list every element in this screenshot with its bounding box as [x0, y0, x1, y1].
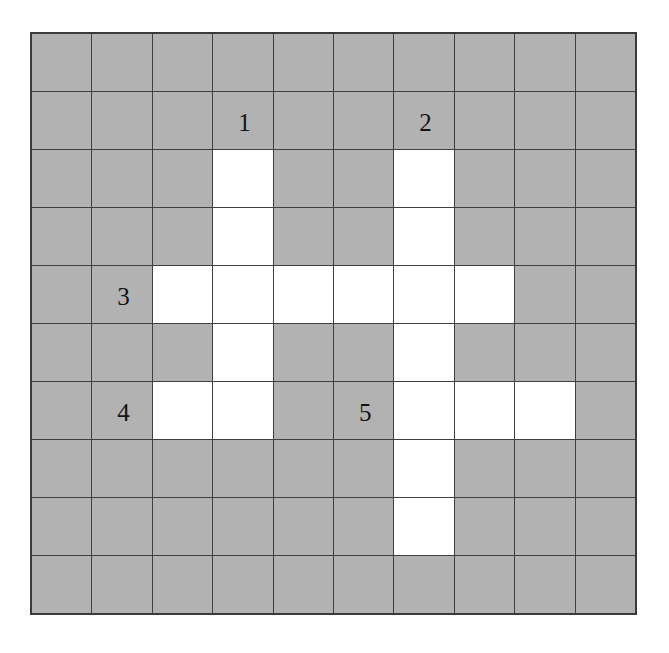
clue-number-5: 5 [334, 399, 393, 424]
grid-cell-r9-c8 [455, 498, 514, 555]
grid-cell-r6-c7[interactable] [394, 324, 453, 381]
grid-cell-r2-c2 [92, 92, 151, 149]
grid-cell-r5-c1 [32, 266, 91, 323]
grid-cell-r9-c7[interactable] [394, 498, 453, 555]
grid-cell-r6-c8 [455, 324, 514, 381]
grid-cell-r1-c1 [32, 34, 91, 91]
grid-cell-r8-c6 [334, 440, 393, 497]
grid-cell-r6-c6 [334, 324, 393, 381]
grid-cell-r3-c9 [515, 150, 574, 207]
grid-cell-r7-c6: 5 [334, 382, 393, 439]
grid-cell-r2-c8 [455, 92, 514, 149]
grid-cell-r5-c2: 3 [92, 266, 151, 323]
crossword-grid[interactable]: 12345 [30, 32, 637, 615]
grid-cell-r7-c10 [576, 382, 635, 439]
grid-cell-r3-c10 [576, 150, 635, 207]
grid-cell-r5-c7[interactable] [394, 266, 453, 323]
grid-cell-r4-c5 [274, 208, 333, 265]
grid-cell-r9-c5 [274, 498, 333, 555]
grid-cell-r1-c5 [274, 34, 333, 91]
grid-cell-r6-c4[interactable] [213, 324, 272, 381]
grid-cell-r2-c10 [576, 92, 635, 149]
grid-cell-r10-c10 [576, 556, 635, 613]
grid-cell-r9-c4 [213, 498, 272, 555]
grid-cell-r9-c6 [334, 498, 393, 555]
grid-cell-r8-c4 [213, 440, 272, 497]
grid-cell-r10-c4 [213, 556, 272, 613]
grid-cell-r1-c9 [515, 34, 574, 91]
grid-cell-r6-c3 [153, 324, 212, 381]
grid-cell-r1-c4 [213, 34, 272, 91]
grid-cell-r8-c3 [153, 440, 212, 497]
grid-cell-r5-c3[interactable] [153, 266, 212, 323]
grid-cell-r7-c1 [32, 382, 91, 439]
grid-cell-r7-c5 [274, 382, 333, 439]
grid-cell-r4-c1 [32, 208, 91, 265]
grid-cell-r6-c10 [576, 324, 635, 381]
grid-cell-r2-c9 [515, 92, 574, 149]
grid-cell-r5-c10 [576, 266, 635, 323]
grid-cell-r5-c6[interactable] [334, 266, 393, 323]
crossword-puzzle-figure: 12345 [0, 0, 669, 653]
grid-cell-r8-c1 [32, 440, 91, 497]
grid-cell-r10-c1 [32, 556, 91, 613]
grid-cell-r4-c7[interactable] [394, 208, 453, 265]
grid-cell-r5-c4[interactable] [213, 266, 272, 323]
grid-cell-r2-c6 [334, 92, 393, 149]
grid-cell-r1-c10 [576, 34, 635, 91]
grid-cell-r7-c9[interactable] [515, 382, 574, 439]
grid-cell-r3-c7[interactable] [394, 150, 453, 207]
grid-cell-r8-c5 [274, 440, 333, 497]
grid-cell-r4-c3 [153, 208, 212, 265]
grid-cell-r2-c5 [274, 92, 333, 149]
grid-cell-r3-c8 [455, 150, 514, 207]
grid-cell-r9-c10 [576, 498, 635, 555]
grid-cell-r3-c6 [334, 150, 393, 207]
clue-number-4: 4 [92, 399, 151, 424]
grid-cell-r4-c8 [455, 208, 514, 265]
grid-cell-r2-c1 [32, 92, 91, 149]
grid-cell-r3-c4[interactable] [213, 150, 272, 207]
grid-cell-r8-c9 [515, 440, 574, 497]
clue-number-3: 3 [92, 283, 151, 308]
grid-cell-r6-c2 [92, 324, 151, 381]
grid-cell-r10-c8 [455, 556, 514, 613]
grid-cell-r8-c2 [92, 440, 151, 497]
grid-cell-r1-c7 [394, 34, 453, 91]
grid-cell-r1-c3 [153, 34, 212, 91]
grid-cell-r3-c1 [32, 150, 91, 207]
grid-cell-r3-c5 [274, 150, 333, 207]
grid-cell-r10-c3 [153, 556, 212, 613]
grid-cell-r9-c2 [92, 498, 151, 555]
grid-cell-r10-c6 [334, 556, 393, 613]
grid-cell-r10-c5 [274, 556, 333, 613]
grid-cell-r8-c8 [455, 440, 514, 497]
clue-number-1: 1 [213, 109, 272, 134]
grid-cell-r6-c5 [274, 324, 333, 381]
grid-cell-r9-c9 [515, 498, 574, 555]
grid-cell-r7-c8[interactable] [455, 382, 514, 439]
clue-number-2: 2 [394, 109, 453, 134]
grid-cell-r4-c4[interactable] [213, 208, 272, 265]
grid-cell-r10-c7 [394, 556, 453, 613]
grid-cell-r3-c3 [153, 150, 212, 207]
grid-cell-r6-c1 [32, 324, 91, 381]
grid-cell-r10-c2 [92, 556, 151, 613]
grid-cell-r3-c2 [92, 150, 151, 207]
grid-cell-r2-c3 [153, 92, 212, 149]
grid-cell-r1-c6 [334, 34, 393, 91]
grid-cell-r7-c3[interactable] [153, 382, 212, 439]
grid-cell-r7-c2: 4 [92, 382, 151, 439]
grid-cell-r2-c4: 1 [213, 92, 272, 149]
grid-cell-r4-c10 [576, 208, 635, 265]
grid-cell-r5-c5[interactable] [274, 266, 333, 323]
grid-cell-r10-c9 [515, 556, 574, 613]
grid-cell-r7-c4[interactable] [213, 382, 272, 439]
grid-cell-r5-c9 [515, 266, 574, 323]
grid-cell-r9-c1 [32, 498, 91, 555]
grid-cell-r8-c7[interactable] [394, 440, 453, 497]
grid-cell-r5-c8[interactable] [455, 266, 514, 323]
grid-cell-r7-c7[interactable] [394, 382, 453, 439]
grid-cell-r4-c2 [92, 208, 151, 265]
grid-cell-r6-c9 [515, 324, 574, 381]
